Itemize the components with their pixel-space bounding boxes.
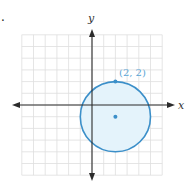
y-axis-label: y [87, 12, 95, 25]
problem-marker: . [1, 10, 5, 24]
circle-center-point [113, 115, 117, 119]
axes [18, 33, 170, 176]
x-axis-right-arrow-icon [167, 102, 175, 108]
point-on-circle [113, 80, 117, 84]
x-axis-left-arrow-icon [12, 102, 20, 108]
circle-graph-figure: . x y (2, 2) [0, 0, 186, 193]
point-label: (2, 2) [119, 67, 146, 78]
x-axis-label: x [178, 99, 185, 112]
y-axis-down-arrow-icon [89, 173, 95, 181]
y-axis-up-arrow-icon [89, 29, 95, 37]
